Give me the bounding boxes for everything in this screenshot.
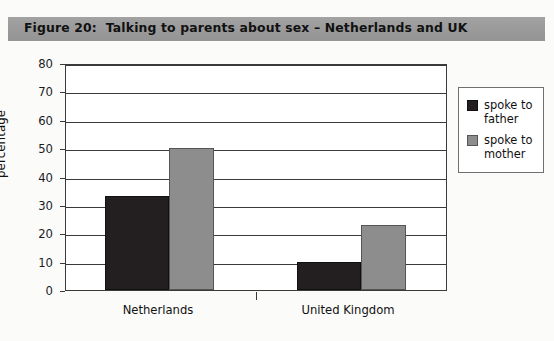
- gridline: [66, 65, 446, 66]
- x-axis-separator-tick: [256, 292, 257, 300]
- legend-label-father-line1: spoke to: [484, 98, 532, 112]
- plot-area: [65, 64, 447, 291]
- y-tick-label: 0: [13, 284, 53, 298]
- legend-label-father: spoke tofather: [484, 98, 540, 126]
- y-axis-title: percentage: [0, 110, 8, 178]
- legend-label-mother-line1: spoke to: [484, 133, 532, 147]
- dark-swatch-icon: [467, 100, 478, 111]
- legend-item-mother: spoke tomother: [467, 133, 540, 161]
- y-tick-label: 40: [13, 171, 53, 185]
- grey-swatch-icon: [467, 135, 478, 146]
- gridline: [66, 122, 446, 123]
- gridline: [66, 93, 446, 94]
- chart-legend: spoke tofather spoke tomother: [458, 87, 544, 173]
- legend-label-mother: spoke tomother: [484, 133, 540, 161]
- bar-united-kingdom-mother: [361, 225, 406, 290]
- x-tick-label: Netherlands: [123, 303, 194, 317]
- figure-title: Figure 20: Talking to parents about sex …: [24, 20, 468, 35]
- y-tick-label: 50: [13, 142, 53, 156]
- legend-item-father: spoke tofather: [467, 98, 540, 126]
- y-tick-label: 80: [13, 57, 53, 71]
- y-tick-label: 30: [13, 199, 53, 213]
- figure-container: Figure 20: Talking to parents about sex …: [0, 0, 554, 341]
- legend-label-mother-line2: mother: [484, 147, 525, 161]
- bar-united-kingdom-father: [297, 262, 361, 290]
- y-tick-label: 10: [13, 256, 53, 270]
- bar-netherlands-mother: [169, 148, 214, 290]
- y-tick-mark: [60, 291, 65, 292]
- legend-label-father-line2: father: [484, 112, 518, 126]
- gridline: [66, 150, 446, 151]
- x-tick-label: United Kingdom: [301, 303, 394, 317]
- y-tick-label: 70: [13, 85, 53, 99]
- bar-netherlands-father: [105, 196, 169, 290]
- y-tick-label: 20: [13, 227, 53, 241]
- figure-title-bar: Figure 20: Talking to parents about sex …: [8, 17, 545, 41]
- y-tick-label: 60: [13, 114, 53, 128]
- gridline: [66, 179, 446, 180]
